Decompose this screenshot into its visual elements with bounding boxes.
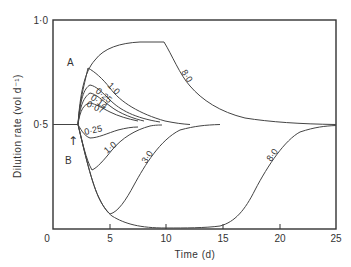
x-tick-label-20: 20 bbox=[274, 233, 286, 244]
label-b-1.0: 1·0 bbox=[102, 140, 118, 156]
y-tick-label-1.0: 1·0 bbox=[34, 15, 49, 26]
label-b-0.25: 0·25 bbox=[83, 123, 103, 137]
label-a-8.0: 8·0 bbox=[179, 68, 194, 84]
label-b-3.0: 3·0 bbox=[139, 149, 155, 165]
group-label-a: A bbox=[67, 57, 74, 68]
x-tick-label-0: 0 bbox=[44, 233, 50, 244]
group-label-b: B bbox=[65, 155, 72, 166]
curve-b-3.0 bbox=[78, 125, 220, 215]
y-axis-title: Dilution rate (vol d⁻¹) bbox=[12, 74, 23, 178]
y-tick-label-0.5: 0·5 bbox=[34, 119, 49, 130]
arrow-up-icon: ↑ bbox=[68, 134, 78, 148]
x-tick-label-15: 15 bbox=[217, 233, 229, 244]
dilution-rate-chart: 1·0 0·5 0 5 10 15 20 25 Time (d) Dilutio… bbox=[0, 0, 351, 267]
curve-b-8.0 bbox=[78, 125, 336, 229]
label-b-8.0: 8·0 bbox=[264, 147, 280, 163]
x-tick-label-10: 10 bbox=[160, 233, 172, 244]
x-axis-title: Time (d) bbox=[175, 249, 216, 260]
x-tick-label-5: 5 bbox=[107, 233, 113, 244]
x-tick-label-25: 25 bbox=[330, 233, 342, 244]
